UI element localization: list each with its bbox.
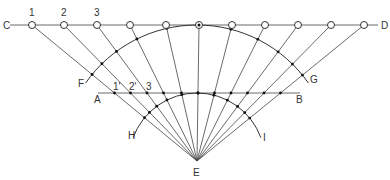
arc-intersection-dot <box>248 117 251 120</box>
arc-intersection-dot <box>301 74 304 77</box>
arc-intersection-dot <box>91 73 94 76</box>
top-point-circle <box>29 22 36 29</box>
arc-intersection-dot <box>236 105 239 108</box>
top-number-2: 2 <box>61 7 67 18</box>
ab-intersection-dot <box>279 92 282 95</box>
top-point-circle <box>163 22 170 29</box>
arc-intersection-dot <box>213 94 216 97</box>
mid-number-2: 2' <box>129 81 137 92</box>
mid-number-1: 1' <box>113 81 121 92</box>
arc-intersection-dot <box>180 93 183 96</box>
label-D: D <box>381 20 388 31</box>
arc-intersection-dot <box>148 111 151 114</box>
top-point-circle <box>328 22 335 29</box>
ab-intersection-dot <box>113 92 116 95</box>
label-E: E <box>193 167 200 178</box>
arc-intersection-dot <box>115 50 118 53</box>
ab-intersection-dot <box>263 92 266 95</box>
arc-intersection-dot <box>155 105 158 108</box>
ab-intersection-dot <box>246 92 249 95</box>
arc-intersection-dot <box>226 99 229 102</box>
arc-intersection-dot <box>135 38 138 41</box>
top-center-dot <box>198 24 201 27</box>
top-point-circle <box>61 22 68 29</box>
label-H: H <box>128 130 135 141</box>
top-point-circle <box>127 22 134 29</box>
ab-intersection-dot <box>129 92 132 95</box>
ab-intersection-dot <box>230 92 233 95</box>
top-number-3: 3 <box>94 7 100 18</box>
top-point-circle <box>229 22 236 29</box>
arc-intersection-dot <box>291 63 294 66</box>
ab-intersection-dot <box>146 92 149 95</box>
mid-number-3: 3 <box>146 81 152 92</box>
arc-intersection-dot <box>197 92 200 95</box>
construction-diagram: C D A B E F G H I 1 2 3 1' 2' 3 <box>0 0 390 180</box>
top-point-circle <box>295 22 302 29</box>
label-A: A <box>94 94 101 105</box>
arc-intersection-dot <box>166 99 169 102</box>
outer-arc-FG <box>86 25 309 83</box>
label-I: I <box>263 132 266 143</box>
label-G: G <box>310 74 318 85</box>
top-point-circle <box>262 22 269 29</box>
arc-intersection-dot <box>101 62 104 65</box>
arc-intersection-dot <box>143 116 146 119</box>
label-F: F <box>78 78 84 89</box>
point-labels: C D A B E F G H I 1 2 3 1' 2' 3 <box>3 7 388 178</box>
top-point-circle <box>94 22 101 29</box>
label-B: B <box>296 94 303 105</box>
arc-intersection-dot <box>256 38 259 41</box>
top-point-circle <box>361 22 368 29</box>
ab-intersection-dot <box>162 92 165 95</box>
label-C: C <box>3 20 10 31</box>
arc-intersection-dot <box>277 50 280 53</box>
top-number-1: 1 <box>29 7 35 18</box>
arc-intersection-dot <box>243 111 246 114</box>
